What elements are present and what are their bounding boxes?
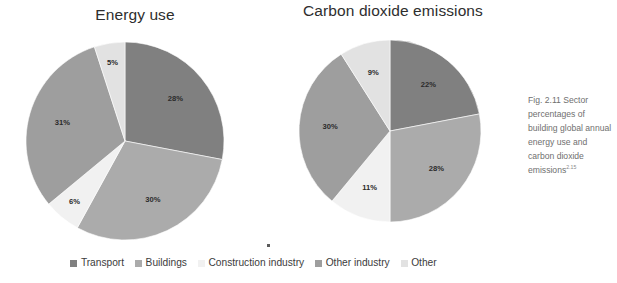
scan-artifact-dot — [267, 244, 270, 247]
legend-item-label: Transport — [81, 258, 124, 268]
legend-item[interactable]: Other — [401, 258, 437, 268]
legend-item[interactable]: Other industry — [315, 258, 389, 268]
figure-caption: Fig. 2.11 Sector percentages of building… — [528, 94, 612, 178]
pie-chart-carbon-dioxide-emissions: 22%28%11%30%9% — [272, 19, 500, 229]
legend-swatch-icon — [315, 260, 322, 267]
pie-slice-label: 30% — [322, 122, 337, 131]
pie-slice-label: 28% — [168, 94, 183, 103]
pie-wrap-carbon-dioxide-emissions: 22%28%11%30%9% — [272, 19, 512, 229]
chart-title-energy-use: Energy use — [12, 6, 258, 23]
legend-item-label: Other — [411, 258, 436, 268]
chart-panel-carbon-dioxide-emissions: Carbon dioxide emissions 22%28%11%30%9% — [272, 2, 512, 254]
chart-legend: TransportBuildingsConstruction industryO… — [0, 258, 617, 268]
pie-slice-label: 30% — [145, 195, 160, 204]
legend-item-label: Other industry — [326, 258, 390, 268]
figure-caption-text: Fig. 2.11 Sector percentages of building… — [528, 95, 611, 175]
legend-swatch-icon — [135, 260, 142, 267]
figure-caption-superscript: 2.15 — [566, 164, 576, 170]
legend-item-label: Buildings — [146, 258, 187, 268]
pie-slice-label: 11% — [362, 183, 377, 192]
pie-slice-label: 31% — [55, 118, 70, 127]
pie-wrap-energy-use: 28%30%6%31%5% — [8, 23, 258, 245]
legend-swatch-icon — [70, 260, 77, 267]
legend-item-label: Construction industry — [208, 258, 304, 268]
pie-slice-label: 9% — [368, 68, 379, 77]
pie-slice-label: 6% — [69, 197, 80, 206]
pie-chart-energy-use: 28%30%6%31%5% — [8, 23, 244, 245]
chart-panel-energy-use: Energy use 28%30%6%31%5% — [8, 6, 258, 258]
chart-title-carbon-dioxide-emissions: Carbon dioxide emissions — [274, 2, 512, 19]
legend-item[interactable]: Construction industry — [198, 258, 304, 268]
figure-root: Energy use 28%30%6%31%5% Carbon dioxide … — [0, 0, 617, 283]
pie-slice-label: 5% — [107, 58, 118, 67]
legend-item[interactable]: Transport — [70, 258, 124, 268]
legend-item[interactable]: Buildings — [135, 258, 187, 268]
pie-slice-label: 22% — [421, 80, 436, 89]
legend-swatch-icon — [401, 260, 408, 267]
pie-slice-label: 28% — [429, 164, 444, 173]
legend-swatch-icon — [198, 260, 205, 267]
